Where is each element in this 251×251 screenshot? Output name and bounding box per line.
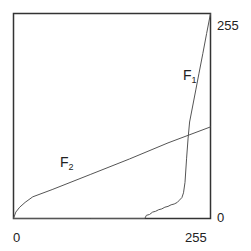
x-tick-min: 0 <box>13 230 20 245</box>
series-line-f2 <box>14 127 211 219</box>
series-label-f1: F1 <box>183 67 197 85</box>
series-line-f1 <box>14 14 211 219</box>
y-tick-min: 0 <box>217 210 224 225</box>
series-label-f2: F2 <box>60 154 74 172</box>
series-layer <box>14 14 211 219</box>
y-tick-max: 255 <box>217 18 239 33</box>
x-tick-max: 255 <box>185 230 207 245</box>
chart: F1 F2 255 0 0 255 <box>0 0 251 251</box>
plot-frame <box>14 14 211 219</box>
